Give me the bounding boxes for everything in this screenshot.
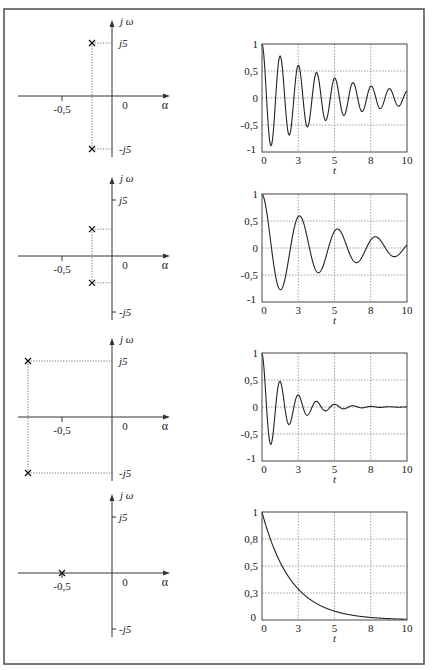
y-tick-label: 0,3: [244, 587, 258, 599]
origin-label: 0: [122, 99, 128, 111]
j5-label: j5: [117, 511, 128, 523]
real-tick-label: -0,5: [53, 424, 71, 436]
y-tick-label: -0,5: [241, 428, 259, 440]
x-tick-label: 10: [402, 304, 414, 316]
y-tick-label: 0,5: [244, 215, 258, 227]
j5-label: j5: [117, 194, 128, 206]
real-tick-label: -0,5: [53, 263, 71, 275]
pole-x-icon: [89, 40, 95, 46]
pole-zero-plot-4: -0,50αj ωj5-j5: [18, 489, 170, 637]
j5-label: j5: [117, 355, 128, 367]
y-tick-label: 1: [253, 188, 259, 200]
alpha-label: α: [162, 419, 169, 433]
y-tick-label: 0: [253, 242, 259, 254]
y-tick-label: 1: [253, 38, 259, 50]
y-tick-label: -0,5: [241, 269, 259, 281]
x-tick-label: 0: [261, 304, 267, 316]
imag-axis-arrow-icon: [110, 338, 115, 345]
pole-x-icon: [25, 358, 31, 364]
jomega-label: j ω: [118, 15, 134, 27]
jomega-label: j ω: [118, 172, 134, 184]
neg-j5-label: -j5: [119, 306, 132, 318]
pole-x-icon: [89, 226, 95, 232]
imag-axis-arrow-icon: [110, 177, 115, 184]
impulse-response-chart-1: 035810-1-0,500,51t: [241, 38, 413, 176]
alpha-label: α: [162, 258, 169, 272]
origin-label: 0: [122, 420, 128, 432]
figure-canvas: -0,50αj ωj5-j5035810-1-0,500,51t-0,50αj …: [0, 0, 432, 670]
x-tick-label: 0: [261, 622, 267, 634]
alpha-label: α: [162, 575, 169, 589]
y-tick-label: 1: [253, 347, 259, 359]
x-tick-label: 3: [296, 154, 302, 166]
origin-label: 0: [122, 259, 128, 271]
y-tick-label: -0,5: [241, 119, 259, 131]
y-tick-label: 0,5: [244, 65, 258, 77]
imag-axis-arrow-icon: [110, 494, 115, 501]
x-tick-label: 8: [368, 622, 374, 634]
alpha-label: α: [162, 98, 169, 112]
x-tick-label: 3: [296, 304, 302, 316]
impulse-response-chart-3: 035810-1-0,500,51t: [241, 347, 413, 485]
pole-x-icon: [89, 280, 95, 286]
impulse-response-chart-4: 03581000,30,50,81t: [244, 506, 413, 644]
x-tick-label: 8: [368, 463, 374, 475]
x-tick-label: 10: [402, 154, 414, 166]
y-tick-label: 0: [253, 401, 259, 413]
x-tick-label: 10: [402, 622, 414, 634]
y-tick-label: 0: [251, 611, 257, 623]
x-tick-label: 3: [296, 463, 302, 475]
impulse-response-chart-2: 035810-1-0,500,51t: [241, 188, 413, 326]
y-tick-label: 0,8: [244, 533, 258, 545]
x-tick-label: 0: [261, 463, 267, 475]
y-tick-label: 1: [253, 506, 259, 518]
y-tick-label: -1: [247, 452, 256, 464]
pole-zero-plot-2: -0,50αj ωj5-j5: [18, 172, 170, 320]
neg-j5-label: -j5: [119, 467, 132, 479]
figure-rows: -0,50αj ωj5-j5035810-1-0,500,51t-0,50αj …: [18, 15, 413, 644]
y-tick-label: 0,5: [244, 560, 258, 572]
origin-label: 0: [122, 576, 128, 588]
y-tick-label: -1: [247, 143, 256, 155]
x-tick-label: 3: [296, 622, 302, 634]
x-tick-label: 10: [402, 463, 414, 475]
neg-j5-label: -j5: [119, 623, 132, 635]
real-tick-label: -0,5: [53, 103, 71, 115]
neg-j5-label: -j5: [119, 143, 132, 155]
real-tick-label: -0,5: [53, 580, 71, 592]
x-tick-label: 8: [368, 154, 374, 166]
y-tick-label: 0: [253, 92, 259, 104]
j5-label: j5: [117, 37, 128, 49]
y-tick-label: -1: [247, 293, 256, 305]
pole-x-icon: [25, 470, 31, 476]
pole-zero-plot-3: -0,50αj ωj5-j5: [18, 333, 170, 481]
x-tick-label: 8: [368, 304, 374, 316]
x-tick-label: 0: [261, 154, 267, 166]
y-tick-label: 0,5: [244, 374, 258, 386]
imag-axis-arrow-icon: [110, 20, 115, 27]
pole-x-icon: [89, 146, 95, 152]
jomega-label: j ω: [118, 489, 134, 501]
pole-zero-plot-1: -0,50αj ωj5-j5: [18, 15, 170, 157]
jomega-label: j ω: [118, 333, 134, 345]
